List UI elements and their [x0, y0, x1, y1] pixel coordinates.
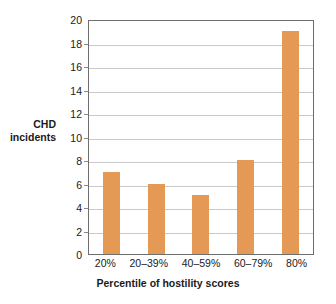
bar — [237, 160, 254, 254]
x-axis-tick-label: 20–39% — [130, 258, 169, 269]
y-axis-tick-labels: 02468101214161820 — [58, 20, 82, 255]
y-axis-tick-label: 4 — [76, 203, 82, 214]
y-axis-title-line-1: CHD — [2, 118, 56, 131]
y-axis-tick-label: 18 — [70, 38, 82, 49]
bar — [282, 31, 299, 254]
bar-chart-figure: CHD incidents 02468101214161820 20%20–39… — [0, 0, 336, 304]
y-axis-tick-label: 16 — [70, 62, 82, 73]
bar — [103, 172, 120, 254]
y-axis-tick-label: 2 — [76, 226, 82, 237]
y-axis-title-line-2: incidents — [2, 131, 56, 144]
y-axis-title: CHD incidents — [2, 118, 56, 144]
y-axis-tick-label: 20 — [70, 15, 82, 26]
bar — [192, 195, 209, 254]
x-axis-tick-label: 80% — [286, 258, 307, 269]
y-axis-tick-label: 10 — [70, 132, 82, 143]
x-axis-tick-label: 40–59% — [182, 258, 221, 269]
y-axis-tick-label: 8 — [76, 156, 82, 167]
x-axis-tick-label: 20% — [95, 258, 116, 269]
bar — [148, 184, 165, 255]
x-axis-title: Percentile of hostility scores — [0, 278, 336, 289]
y-axis-tick-label: 0 — [76, 250, 82, 261]
bars-layer — [89, 21, 313, 254]
y-axis-tick-label: 6 — [76, 179, 82, 190]
plot-area — [88, 20, 314, 255]
x-axis-tick-labels: 20%20–39%40–59%60–79%80% — [88, 258, 314, 272]
x-axis-tick-label: 60–79% — [234, 258, 273, 269]
y-axis-tick-label: 12 — [70, 109, 82, 120]
y-axis-tick-label: 14 — [70, 85, 82, 96]
